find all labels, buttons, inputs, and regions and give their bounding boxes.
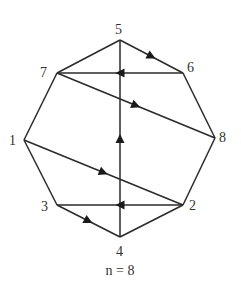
octagon-diagram: 12345678 n = 8 (0, 0, 241, 290)
edge-7-1 (24, 73, 57, 140)
vertex-label-4: 4 (116, 244, 123, 259)
edge-2-8 (183, 138, 215, 205)
edge-5-7 (57, 40, 120, 73)
vertex-label-7: 7 (40, 65, 47, 80)
vertex-label-1: 1 (9, 133, 16, 148)
vertex-label-8: 8 (219, 130, 226, 145)
edge-1-3 (24, 140, 57, 205)
vertex-label-2: 2 (189, 198, 196, 213)
edge-8-6 (183, 73, 215, 138)
vertex-label-3: 3 (41, 199, 48, 214)
vertex-label-6: 6 (187, 60, 194, 75)
caption: n = 8 (106, 263, 135, 278)
arrowheads-group (82, 50, 155, 223)
arrowhead-icon (116, 134, 125, 143)
vertex-label-5: 5 (115, 22, 122, 37)
edge-4-2 (120, 205, 183, 237)
